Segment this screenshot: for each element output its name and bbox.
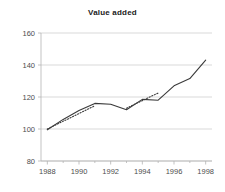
series-line-0 [47, 60, 205, 130]
gridlines [41, 33, 212, 161]
data-series [47, 60, 205, 130]
x-axis-tick-labels: 198819901992199419961998 [39, 167, 214, 176]
y-axis-label-100: 100 [22, 125, 35, 134]
axes [38, 33, 212, 165]
y-axis-label-80: 80 [27, 157, 35, 166]
chart-container: Value added 80100120140160 1988199019921… [0, 0, 225, 192]
series-line-2 [127, 93, 159, 108]
x-axis-label-1990: 1990 [71, 167, 88, 176]
y-axis-tick-labels: 80100120140160 [22, 29, 35, 166]
y-axis-label-140: 140 [22, 61, 35, 70]
line-chart-plot: 80100120140160 198819901992199419961998 [0, 0, 225, 192]
series-line-1 [47, 106, 95, 129]
x-axis-label-1994: 1994 [134, 167, 151, 176]
x-axis-label-1996: 1996 [166, 167, 183, 176]
y-axis-label-160: 160 [22, 29, 35, 38]
x-axis-label-1992: 1992 [102, 167, 119, 176]
y-axis-label-120: 120 [22, 93, 35, 102]
x-axis-label-1988: 1988 [39, 167, 56, 176]
x-axis-label-1998: 1998 [197, 167, 214, 176]
